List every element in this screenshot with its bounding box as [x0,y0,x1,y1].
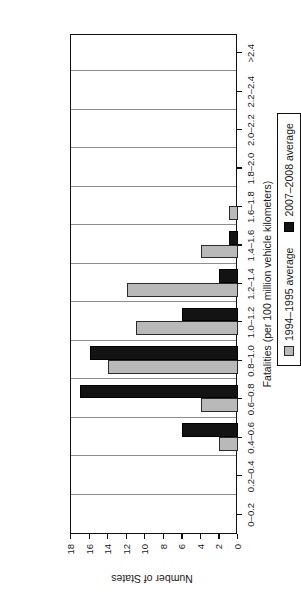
category-axis-tick-label: 1.0–1.2 [245,307,256,339]
category-axis-tick [237,360,242,361]
bar-group [71,33,238,71]
value-axis-tick-label: 18 [65,544,76,576]
value-axis-tick [237,534,238,539]
bar [182,308,238,322]
bar-group [71,418,238,456]
y-axis-title: Number of States [92,573,212,585]
category-axis-tick [237,129,242,130]
rotated-figure-wrapper: 024681012141618 0–0.20.2–0.40.4–0.60.6–0… [0,0,259,594]
category-axis-tick-label: 1.6–1.8 [245,191,256,223]
value-axis-tick-label: 10 [139,544,150,576]
bar-group [71,264,238,302]
category-axis-tick [237,514,242,515]
value-axis-tick [163,534,164,539]
category-axis-tick [237,206,242,207]
bar-group [71,495,238,533]
bar [127,283,238,297]
bar [201,398,238,412]
category-axis-tick-label: >2.4 [245,44,256,63]
value-axis-tick [107,534,108,539]
bar-group [71,187,238,225]
category-axis-tick-label: 0.2–0.4 [245,460,256,492]
bar-group [71,71,238,109]
bar-group [71,379,238,417]
bar [108,360,238,374]
plot-area [70,34,237,534]
value-axis-tick [200,534,201,539]
category-axis-tick [237,398,242,399]
value-axis-tick-label: 8 [157,544,168,576]
category-axis-tick [237,244,242,245]
category-axis-tick [237,167,242,168]
value-axis-tick-label: 6 [176,544,187,576]
value-axis-tick [218,534,219,539]
bar-group [71,110,238,148]
category-axis-tick [237,321,242,322]
bar [136,321,238,335]
category-axis-tick-label: 0–0.2 [245,503,256,527]
category-axis-tick-label: 1.4–1.6 [245,230,256,262]
bar [90,346,238,360]
bar-group [71,148,238,186]
value-axis-tick-label: 14 [102,544,113,576]
bar-group [71,225,238,263]
bar-group [71,456,238,494]
value-axis-tick [181,534,182,539]
bar [201,245,238,259]
bar-group [71,341,238,379]
bar [229,231,238,245]
value-axis-tick-label: 12 [120,544,131,576]
bar [182,423,238,437]
bar [229,206,238,220]
category-axis-tick [237,475,242,476]
category-axis-tick [237,437,242,438]
value-axis-tick [70,534,71,539]
category-axis-tick-label: 1.2–1.4 [245,268,256,300]
value-axis-tick-label: 4 [194,544,205,576]
value-axis-tick [144,534,145,539]
value-axis-tick [126,534,127,539]
value-axis-tick-label: 2 [213,544,224,576]
bar-chart-figure: 024681012141618 0–0.20.2–0.40.4–0.60.6–0… [0,0,259,594]
category-axis-tick-label: 0.6–0.8 [245,384,256,416]
category-axis-tick [237,91,242,92]
value-axis-tick [89,534,90,539]
bar [80,385,238,399]
value-axis-tick-label: 0 [232,544,243,576]
value-axis-tick-label: 16 [83,544,94,576]
category-axis-tick-label: 0.4–0.6 [245,422,256,454]
category-axis-tick-label: 2.2–2.4 [245,76,256,108]
category-axis-tick [237,283,242,284]
category-axis-tick-label: 0.8–1.0 [245,345,256,377]
category-axis-tick-label: 2.0–2.2 [245,114,256,146]
bars-layer [71,35,236,533]
bar-group [71,302,238,340]
bar [219,437,238,451]
bar [219,269,238,283]
category-axis-tick-label: 1.8–2.0 [245,153,256,185]
category-axis-tick [237,52,242,53]
